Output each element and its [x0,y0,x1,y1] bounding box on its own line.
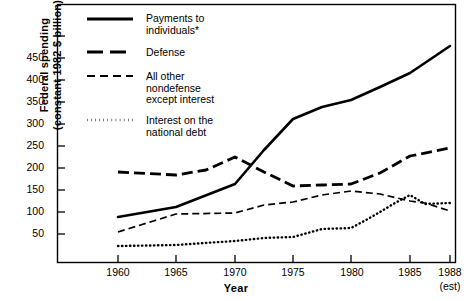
series-line-all-other-nondefense [118,191,450,232]
y-axis-ticks [58,36,66,234]
chart-figure: Federal spending (constant 1982 $ billio… [0,0,472,301]
series-line-payments-to-individuals [118,46,450,217]
x-axis-ticks [118,255,450,263]
series-line-defense [118,148,450,186]
plot-frame [58,5,456,263]
chart-plot-svg [0,0,472,301]
